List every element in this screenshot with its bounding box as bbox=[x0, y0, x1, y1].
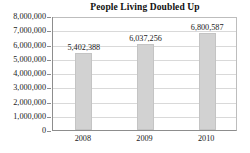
y-tick-label: 7,000,000 bbox=[0, 27, 46, 35]
y-axis: 8,000,0007,000,0006,000,0005,000,0004,00… bbox=[0, 17, 46, 131]
y-tick-mark bbox=[47, 46, 51, 47]
bar-value-label: 5,402,388 bbox=[54, 43, 114, 52]
x-axis: 200820092010 bbox=[52, 134, 237, 148]
bar-chart: People Living Doubled Up 8,000,0007,000,… bbox=[0, 0, 250, 153]
bar-value-label: 6,037,256 bbox=[116, 34, 176, 43]
y-tick-label: 1,000,000 bbox=[0, 113, 46, 121]
x-tick-label: 2010 bbox=[186, 134, 226, 144]
plot-area: 5,402,3886,037,2566,800,587 bbox=[52, 17, 237, 131]
y-tick-mark bbox=[47, 17, 51, 18]
chart-title: People Living Doubled Up bbox=[52, 1, 238, 13]
y-tick-mark bbox=[47, 31, 51, 32]
bar bbox=[199, 33, 216, 130]
y-tick-label: 2,000,000 bbox=[0, 99, 46, 107]
y-tick-label: 5,000,000 bbox=[0, 56, 46, 64]
x-tick-label: 2009 bbox=[125, 134, 165, 144]
y-tick-mark bbox=[47, 131, 51, 132]
y-tick-mark bbox=[47, 117, 51, 118]
x-tick-label: 2008 bbox=[63, 134, 103, 144]
bar bbox=[137, 44, 154, 130]
y-tick-mark bbox=[47, 88, 51, 89]
y-tick-mark bbox=[47, 74, 51, 75]
y-tick-mark bbox=[47, 60, 51, 61]
gridline bbox=[53, 17, 236, 18]
y-tick-mark bbox=[47, 103, 51, 104]
y-tick-label: 8,000,000 bbox=[0, 13, 46, 21]
y-tick-label: 0 bbox=[0, 127, 46, 135]
bar-value-label: 6,800,587 bbox=[177, 23, 237, 32]
bar bbox=[75, 53, 92, 130]
y-tick-label: 6,000,000 bbox=[0, 42, 46, 50]
y-tick-label: 3,000,000 bbox=[0, 84, 46, 92]
y-tick-label: 4,000,000 bbox=[0, 70, 46, 78]
